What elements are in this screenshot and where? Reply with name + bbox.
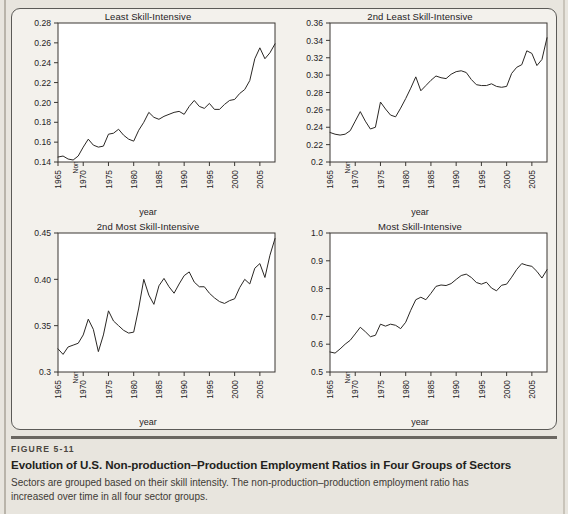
y-tick-label: 0.24 [306,122,323,132]
figure-description: Sectors are grouped based on their skill… [11,476,511,505]
x-tick-label: 2000 [230,170,240,189]
x-tick-label: 2000 [230,380,240,399]
plot-background [58,233,275,372]
chart-panel-least-skill-intensive: Least Skill-Intensive Non-production–Pro… [12,9,284,219]
y-tick-label: 0.22 [34,78,51,88]
figure-title: Evolution of U.S. Non-production–Product… [11,458,557,471]
x-tick-label: 1975 [104,170,114,189]
x-tick-label: 1970 [350,380,360,399]
x-tick-label: 1980 [129,170,139,189]
plot-area-0: 0.140.160.180.200.220.240.260.2819651970… [12,9,285,220]
x-tick-label: 1995 [205,170,215,189]
y-tick-label: 0.26 [34,38,51,48]
y-tick-label: 0.3 [39,367,51,377]
x-tick-label: 1990 [451,380,461,399]
charts-grid: Least Skill-Intensive Non-production–Pro… [12,9,556,429]
y-tick-label: 0.26 [306,105,323,115]
x-tick-label: 1990 [451,170,461,189]
x-tick-label: 2000 [502,380,512,399]
y-tick-label: 0.9 [311,256,323,266]
y-tick-label: 0.2 [311,157,323,167]
x-tick-label: 1985 [154,170,164,189]
x-tick-label: 1975 [376,380,386,399]
y-tick-label: 0.30 [306,70,323,80]
figure-caption: FIGURE 5-11 Evolution of U.S. Non-produc… [11,436,557,505]
x-tick-label: 1995 [477,380,487,399]
x-tick-label: 1980 [129,380,139,399]
x-tick-label: 1965 [53,380,63,399]
y-tick-label: 0.18 [34,117,51,127]
x-tick-label: 1985 [426,380,436,399]
y-tick-label: 0.7 [311,312,323,322]
x-tick-label: 2000 [502,170,512,189]
y-tick-label: 0.8 [311,284,323,294]
x-tick-label: 1975 [376,170,386,189]
x-tick-label: 1965 [325,380,335,399]
x-tick-label: 1975 [104,380,114,399]
y-tick-label: 0.14 [34,157,51,167]
x-axis-label: year [284,417,556,427]
y-tick-label: 0.28 [306,88,323,98]
x-axis-label: year [12,207,284,217]
x-tick-label: 1970 [350,170,360,189]
caption-divider [11,436,557,439]
y-tick-label: 0.24 [34,58,51,68]
x-tick-label: 2005 [527,380,537,399]
y-tick-label: 0.45 [34,228,51,238]
plot-area-2: 0.30.350.400.451965197019751980198519901… [12,219,285,430]
y-tick-label: 1.0 [311,228,323,238]
x-tick-label: 1990 [179,380,189,399]
y-tick-label: 0.5 [311,367,323,377]
x-tick-label: 1995 [205,380,215,399]
x-tick-label: 2005 [255,380,265,399]
x-tick-label: 1995 [477,170,487,189]
chart-panel-2nd-most-skill-intensive: 2nd Most Skill-Intensive Non-production–… [12,219,284,429]
y-tick-label: 0.20 [34,98,51,108]
x-axis-label: year [12,417,284,427]
figure-number: FIGURE 5-11 [11,444,557,454]
page-gutter-rule-left [4,0,6,514]
y-tick-label: 0.35 [34,321,51,331]
plot-area-3: 0.50.60.70.80.91.01965197019751980198519… [284,219,557,430]
figure-page: Least Skill-Intensive Non-production–Pro… [0,0,568,514]
x-tick-label: 2005 [255,170,265,189]
plot-background [330,233,547,372]
chart-panel-most-skill-intensive: Most Skill-Intensive Non-production–Prod… [284,219,556,429]
y-tick-label: 0.16 [34,137,51,147]
plot-background [330,23,547,162]
x-tick-label: 1970 [78,170,88,189]
plot-area-1: 0.20.220.240.260.280.300.320.340.3619651… [284,9,557,220]
x-tick-label: 1965 [325,170,335,189]
y-tick-label: 0.6 [311,339,323,349]
page-gutter-rule-right [563,0,565,514]
y-tick-label: 0.36 [306,18,323,28]
x-tick-label: 1990 [179,170,189,189]
x-tick-label: 1985 [426,170,436,189]
figure-box: Least Skill-Intensive Non-production–Pro… [11,8,557,430]
x-tick-label: 1980 [401,170,411,189]
y-tick-label: 0.40 [34,275,51,285]
x-tick-label: 1980 [401,380,411,399]
y-tick-label: 0.34 [306,36,323,46]
y-tick-label: 0.28 [34,18,51,28]
y-tick-label: 0.22 [306,140,323,150]
x-tick-label: 2005 [527,170,537,189]
x-tick-label: 1965 [53,170,63,189]
x-tick-label: 1970 [78,380,88,399]
x-axis-label: year [284,207,556,217]
chart-panel-2nd-least-skill-intensive: 2nd Least Skill-Intensive Non-production… [284,9,556,219]
y-tick-label: 0.32 [306,53,323,63]
x-tick-label: 1985 [154,380,164,399]
